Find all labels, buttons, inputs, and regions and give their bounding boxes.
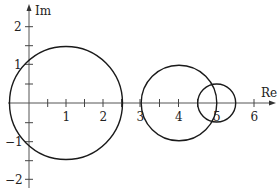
y-tick-label-1: 1 bbox=[14, 58, 22, 72]
imaginary-axis-label: Im bbox=[35, 4, 52, 18]
x-tick-label-5: 5 bbox=[213, 110, 221, 124]
imaginary-axis-arrow-icon bbox=[27, 4, 32, 11]
y-tick-label-2: 2 bbox=[14, 20, 22, 34]
x-tick-label-6: 6 bbox=[251, 110, 259, 124]
y-tick-label-neg2: −2 bbox=[5, 173, 23, 187]
complex-plane-diagram: Im Re 1 2 3 4 5 6 2 1 −1 −2 bbox=[0, 0, 280, 191]
x-tick-label-2: 2 bbox=[100, 110, 108, 124]
x-tick-label-4: 4 bbox=[175, 110, 183, 124]
y-tick-label-neg1: −1 bbox=[5, 135, 23, 149]
x-tick-label-1: 1 bbox=[63, 110, 71, 124]
x-tick-label-3: 3 bbox=[137, 110, 145, 124]
real-axis-label: Re bbox=[261, 86, 277, 100]
real-axis-arrow-icon bbox=[269, 101, 276, 106]
